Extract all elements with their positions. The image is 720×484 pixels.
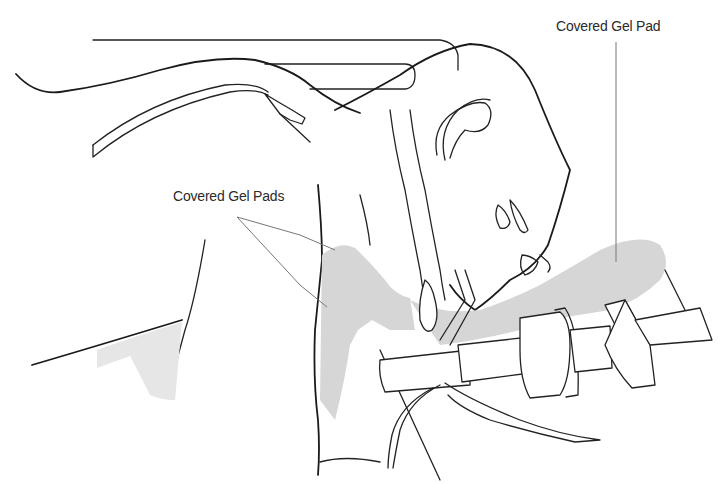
illustration-canvas: Covered Gel Pad Covered Gel Pads [0,0,720,484]
label-head-gel-pad: Covered Gel Pad [556,18,660,34]
lower-tubing [388,383,600,468]
patient-positioning-drawing [0,0,720,484]
label-chest-gel-pads: Covered Gel Pads [173,188,284,204]
patient-back [16,59,360,113]
bed-frame [93,40,458,89]
leader-lines [237,42,616,307]
arm-line [93,84,310,157]
